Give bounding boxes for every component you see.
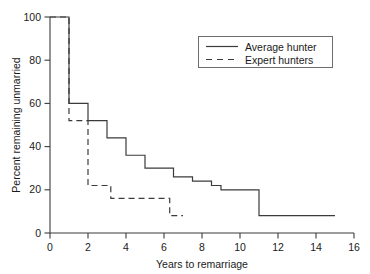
x-tick-label: 12 (272, 241, 284, 253)
x-tick-label: 14 (310, 241, 322, 253)
y-tick-label: 20 (29, 183, 41, 195)
x-tick-label: 16 (348, 241, 360, 253)
x-tick-label: 6 (161, 241, 167, 253)
survival-curve-chart: 0 20 40 60 80 100 0 2 4 6 8 10 12 (0, 0, 370, 274)
legend-label-expert-hunters: Expert hunters (245, 54, 313, 66)
y-axis-title: Percent remaining unmarried (10, 57, 22, 193)
x-tick-label: 8 (199, 241, 205, 253)
x-axis-title: Years to remarriage (156, 258, 248, 270)
x-tick-label: 4 (123, 241, 129, 253)
x-tick-label: 2 (85, 241, 91, 253)
chart-figure: 0 20 40 60 80 100 0 2 4 6 8 10 12 (0, 0, 370, 274)
legend-label-average-hunter: Average hunter (245, 41, 317, 53)
y-tick-label: 40 (29, 140, 41, 152)
y-tick-label: 60 (29, 97, 41, 109)
y-tick-label: 0 (35, 227, 41, 239)
x-tick-label: 0 (47, 241, 53, 253)
chart-legend: Average hunter Expert hunters (199, 37, 333, 68)
y-tick-label: 100 (23, 11, 41, 23)
x-tick-label: 10 (234, 241, 246, 253)
y-tick-label: 80 (29, 54, 41, 66)
